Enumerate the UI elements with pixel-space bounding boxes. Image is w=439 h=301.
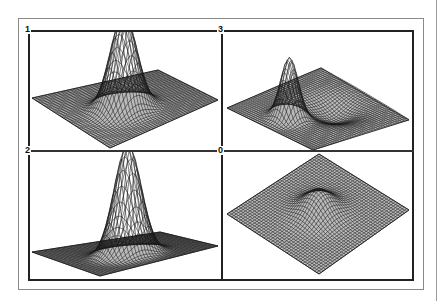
wireframe-mesh [223,32,412,150]
panel-label-3: 3 [217,25,224,34]
panel-label-1: 1 [24,25,31,34]
surface-plot-0 [223,152,412,279]
surface-plot-3 [223,32,412,150]
wireframe-mesh [223,152,412,279]
outer-right-edge [436,0,437,301]
wireframe-mesh [30,32,221,150]
panel-label-0: 0 [217,146,224,155]
panel-label-2: 2 [24,146,31,155]
surface-plot-1 [30,32,221,150]
surface-plot-2 [30,152,221,279]
wireframe-mesh [30,152,221,279]
